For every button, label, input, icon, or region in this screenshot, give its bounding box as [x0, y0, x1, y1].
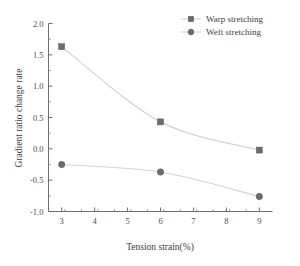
legend-item-2[interactable]: Weft stretching: [181, 27, 262, 37]
x-tick-label: 5: [125, 216, 129, 226]
legend-label: Weft stretching: [206, 27, 262, 37]
legend-marker-circle: [188, 29, 194, 35]
x-tick-label: 4: [92, 216, 97, 226]
y-tick-label: 0.5: [33, 113, 44, 123]
legend-item-1[interactable]: Warp stretching: [181, 14, 264, 24]
x-tick-label: 7: [191, 216, 195, 226]
x-tick-label: 6: [158, 216, 162, 226]
y-tick-label: 2.0: [33, 19, 44, 29]
series-2: [58, 161, 262, 199]
y-tick-group: [49, 24, 53, 212]
y-tick-label-group: 2.01.51.00.50.0-0.5-1.0: [30, 19, 43, 217]
x-tick-label-group: 3456789: [60, 216, 262, 226]
legend-label: Warp stretching: [206, 14, 264, 24]
data-point: [256, 147, 262, 153]
x-tick-label: 3: [60, 216, 64, 226]
axis-group: [49, 24, 273, 212]
data-point: [256, 193, 262, 199]
series-1: [59, 44, 263, 153]
x-tick-label: 9: [257, 216, 261, 226]
data-point: [157, 169, 163, 175]
series-line: [62, 47, 260, 150]
series-group: [58, 44, 262, 200]
y-tick-label: 0.0: [33, 144, 44, 154]
legend-marker-square: [188, 16, 193, 21]
y-axis-title: Gradient ratio change rate: [14, 69, 24, 168]
data-point: [59, 44, 65, 50]
x-tick-label: 8: [224, 216, 228, 226]
x-tick-group: [62, 208, 260, 212]
y-tick-label: 1.0: [33, 81, 44, 91]
y-tick-label: -0.5: [30, 175, 43, 185]
line-chart: 2.01.51.00.50.0-0.5-1.0 3456789 Tension …: [0, 0, 300, 266]
chart-figure: 2.01.51.00.50.0-0.5-1.0 3456789 Tension …: [0, 0, 300, 266]
x-axis-title: Tension strain(%): [126, 242, 194, 253]
data-point: [58, 161, 64, 167]
y-tick-label: -1.0: [30, 207, 43, 217]
y-tick-label: 1.5: [33, 50, 44, 60]
legend: Warp stretchingWeft stretching: [181, 14, 264, 37]
data-point: [158, 119, 164, 125]
